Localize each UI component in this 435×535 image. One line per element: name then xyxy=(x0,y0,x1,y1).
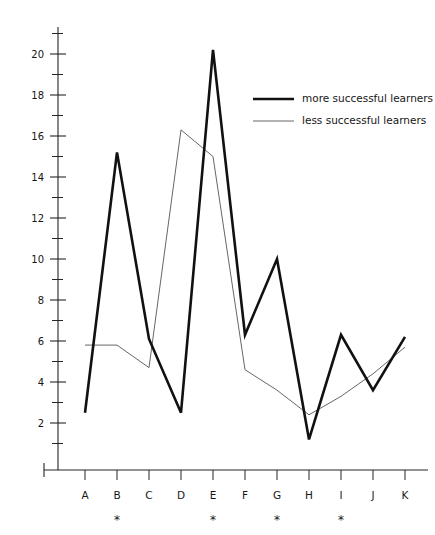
line-chart-figure: 2468101214161820 ABCDEFGHIJK **** more s… xyxy=(0,0,435,535)
y-tick-label-4: 4 xyxy=(38,377,44,388)
x-tick-label-J: J xyxy=(370,489,374,501)
y-tick-label-18: 18 xyxy=(31,90,44,101)
x-tick-label-K: K xyxy=(402,489,410,501)
y-tick-label-6: 6 xyxy=(38,336,44,347)
y-tick-label-2: 2 xyxy=(38,418,44,429)
x-tick-group xyxy=(85,470,405,480)
y-tick-label-10: 10 xyxy=(31,254,44,265)
chart-canvas: 2468101214161820 ABCDEFGHIJK **** more s… xyxy=(0,0,435,535)
x-tick-label-E: E xyxy=(210,489,217,501)
legend-label-less-successful-learners: less successful learners xyxy=(302,114,426,126)
series-line-more-successful-learners xyxy=(85,50,405,440)
data-series-group xyxy=(85,50,405,440)
y-tick-label-14: 14 xyxy=(31,172,44,183)
y-tick-label-8: 8 xyxy=(38,295,44,306)
x-tick-label-F: F xyxy=(242,489,248,501)
x-tick-label-B: B xyxy=(113,489,120,501)
series-line-less-successful-learners xyxy=(85,130,405,415)
y-tick-label-12: 12 xyxy=(31,213,44,224)
x-tick-label-G: G xyxy=(273,489,281,501)
x-tick-label-group: ABCDEFGHIJK xyxy=(81,489,409,501)
significance-marker-I: * xyxy=(338,513,344,527)
x-tick-label-C: C xyxy=(145,489,152,501)
y-tick-label-20: 20 xyxy=(31,49,44,60)
significance-marker-E: * xyxy=(210,513,216,527)
x-tick-label-H: H xyxy=(305,489,313,501)
x-axis xyxy=(44,463,428,477)
x-tick-label-D: D xyxy=(177,489,185,501)
legend: more successful learners less successful… xyxy=(253,92,433,126)
y-tick-label-group: 2468101214161820 xyxy=(31,49,44,429)
y-tick-label-16: 16 xyxy=(31,131,44,142)
x-tick-label-A: A xyxy=(81,489,89,501)
y-tick-group xyxy=(50,34,66,444)
significance-marker-G: * xyxy=(274,513,280,527)
significance-marker-B: * xyxy=(114,513,120,527)
significance-marker-group: **** xyxy=(114,513,344,527)
x-tick-label-I: I xyxy=(339,489,342,501)
legend-label-more-successful-learners: more successful learners xyxy=(302,92,433,104)
